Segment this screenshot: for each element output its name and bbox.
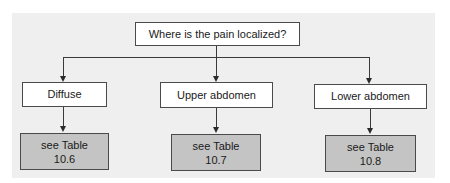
branch-node-upper-abdomen: Upper abdomen: [160, 82, 273, 108]
result-node-table-10-6: see Table 10.6: [20, 133, 109, 170]
result-node-table-10-7: see Table 10.7: [171, 134, 261, 171]
connector-drop-diffuse: [63, 57, 64, 77]
result-node-table-10-8: see Table 10.8: [325, 135, 416, 172]
branch-node-lower-abdomen: Lower abdomen: [314, 84, 427, 109]
arrowhead-icon: [60, 126, 66, 132]
question-label: Where is the pain localized?: [149, 28, 287, 41]
branch-node-diffuse: Diffuse: [22, 82, 107, 107]
connector-upper-result: [216, 108, 217, 128]
arrowhead-icon: [213, 127, 219, 133]
arrowhead-icon: [367, 128, 373, 134]
result-line1: see Table: [193, 139, 240, 153]
result-line1: see Table: [41, 138, 88, 152]
branch-label: Upper abdomen: [177, 89, 256, 102]
result-line2: 10.6: [54, 152, 75, 166]
connector-drop-upper: [216, 57, 217, 77]
connector-drop-lower: [369, 57, 370, 79]
branch-label: Diffuse: [47, 88, 81, 101]
connector-diffuse-result: [63, 107, 64, 127]
connector-stem: [216, 46, 217, 57]
result-line2: 10.8: [360, 154, 381, 168]
result-line1: see Table: [347, 140, 394, 154]
connector-lower-result: [370, 109, 371, 129]
branch-label: Lower abdomen: [331, 90, 410, 103]
question-node: Where is the pain localized?: [135, 22, 300, 46]
result-line2: 10.7: [205, 153, 226, 167]
